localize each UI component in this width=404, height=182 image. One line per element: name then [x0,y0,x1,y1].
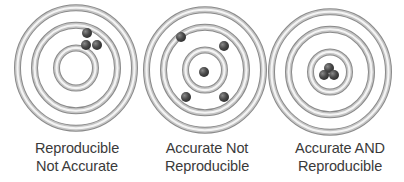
label-line-2: Reproducible [285,157,395,175]
ring-inner [57,48,96,88]
accuracy-reproducibility-diagram: Reproducible Not Accurate Accurate Not R… [0,0,404,182]
shot-dot [199,67,209,77]
label-reproducible-not-accurate: Reproducible Not Accurate [22,139,132,175]
shot-dot [219,41,229,51]
label-line-1: Accurate AND [285,139,395,157]
label-line-1: Reproducible [22,139,132,157]
shot-dot [92,40,102,50]
shot-dot [176,32,186,42]
label-line-1: Accurate Not [152,139,262,157]
shot-dot [219,92,229,102]
shot-dot [319,70,329,80]
shot-dot [82,28,92,38]
label-line-2: Reproducible [152,157,262,175]
target-reproducible-not-accurate [18,8,135,129]
label-line-2: Not Accurate [22,157,132,175]
target-accurate-not-reproducible [147,10,264,131]
shot-dot [81,40,91,50]
label-accurate-not-reproducible: Accurate Not Reproducible [152,139,262,175]
label-accurate-and-reproducible: Accurate AND Reproducible [285,139,395,175]
ring-middle [35,25,118,110]
shot-dot [181,92,191,102]
shot-dot [329,70,339,80]
target-accurate-and-reproducible [272,12,389,133]
